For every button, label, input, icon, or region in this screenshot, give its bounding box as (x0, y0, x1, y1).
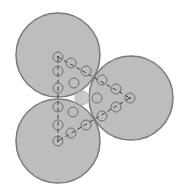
vertex-dot (57, 56, 59, 58)
circle-packing-diagram (0, 0, 188, 194)
vertex-dot (129, 97, 131, 99)
big-circle-top-left (16, 13, 100, 97)
center-circle (75, 91, 89, 105)
vertex-dot (57, 140, 59, 142)
